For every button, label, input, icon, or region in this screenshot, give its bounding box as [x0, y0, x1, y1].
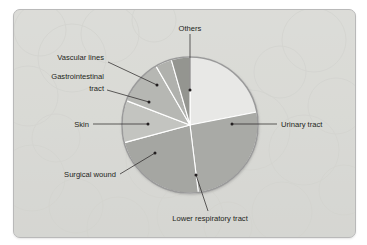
label-others: Others [179, 24, 202, 33]
pie-chart-svg: Others Vascular lines Gastrointestinal t… [0, 0, 367, 245]
leader-dot-others [189, 89, 192, 92]
leader-dot-surgical-wound [154, 152, 157, 155]
label-gastrointestinal-tract-line1: Gastrointestinal [51, 72, 104, 81]
label-lower-respiratory-tract: Lower respiratory tract [172, 214, 248, 223]
leader-dot-lower-respiratory-tract [195, 174, 198, 177]
label-gastrointestinal-tract-line2: tract [89, 84, 105, 93]
leader-dot-gastrointestinal-tract [148, 101, 151, 104]
label-surgical-wound: Surgical wound [64, 170, 116, 179]
label-urinary-tract: Urinary tract [281, 120, 323, 129]
leader-dot-vascular-lines [156, 84, 159, 87]
label-skin: Skin [74, 120, 89, 129]
pie-chart-figure: Others Vascular lines Gastrointestinal t… [0, 0, 367, 245]
leader-dot-urinary-tract [231, 123, 234, 126]
label-vascular-lines: Vascular lines [57, 53, 104, 62]
leader-dot-skin [147, 123, 150, 126]
